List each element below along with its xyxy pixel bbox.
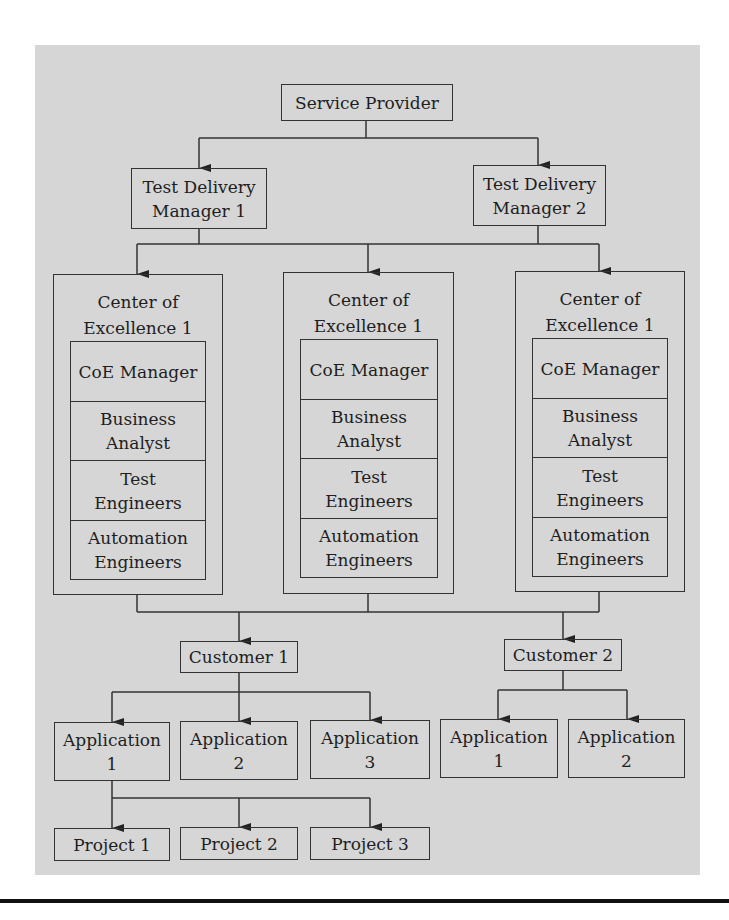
role-label: Automation <box>88 526 188 550</box>
role-automation-engineers: AutomationEngineers <box>533 518 667 575</box>
node-label: Project 3 <box>331 832 409 856</box>
role-label: Test <box>351 465 387 489</box>
role-stack: CoE Manager BusinessAnalyst TestEngineer… <box>70 341 206 580</box>
role-test-engineers: TestEngineers <box>533 458 667 518</box>
node-label: 1 <box>494 749 505 773</box>
role-label: Test <box>120 467 156 491</box>
role-label: Engineers <box>94 550 182 574</box>
node-label: Project 1 <box>73 833 151 857</box>
role-label: Engineers <box>556 488 644 512</box>
node-label: Application <box>321 726 419 750</box>
role-label: CoE Manager <box>541 357 660 381</box>
role-label: Engineers <box>94 491 182 515</box>
role-label: Business <box>100 407 176 431</box>
node-label: Manager 2 <box>493 196 587 220</box>
node-label: Application <box>450 725 548 749</box>
role-stack: CoE Manager BusinessAnalyst TestEngineer… <box>300 339 438 578</box>
center-title: Center of Excellence 1 <box>284 287 453 339</box>
node-label: Customer 1 <box>189 645 289 669</box>
node-customer-1-application-3: Application 3 <box>310 720 430 779</box>
node-test-delivery-manager-2: Test Delivery Manager 2 <box>473 165 606 226</box>
role-business-analyst: BusinessAnalyst <box>301 400 437 459</box>
role-stack: CoE Manager BusinessAnalyst TestEngineer… <box>532 338 668 577</box>
center-title: Center of Excellence 1 <box>516 286 684 338</box>
role-label: Analyst <box>568 428 632 452</box>
role-label: Automation <box>550 523 650 547</box>
center-title-line: Center of <box>284 287 453 313</box>
node-label: Project 2 <box>200 832 278 856</box>
role-coe-manager: CoE Manager <box>301 340 437 400</box>
node-label: 3 <box>365 750 376 774</box>
node-customer-2-application-1: Application 1 <box>440 719 558 778</box>
node-customer-2: Customer 2 <box>504 639 622 671</box>
node-label: Manager 1 <box>152 199 246 223</box>
node-center-of-excellence-b: Center of Excellence 1 CoE Manager Busin… <box>283 272 454 594</box>
node-service-provider: Service Provider <box>281 84 453 121</box>
node-customer-2-application-2: Application 2 <box>568 719 685 778</box>
center-title-line: Excellence 1 <box>54 315 222 341</box>
role-label: Analyst <box>337 429 401 453</box>
role-label: Test <box>582 464 618 488</box>
node-test-delivery-manager-1: Test Delivery Manager 1 <box>131 168 267 229</box>
node-customer-1: Customer 1 <box>180 641 298 673</box>
role-label: Engineers <box>556 547 644 571</box>
role-label: Engineers <box>325 548 413 572</box>
node-project-2: Project 2 <box>180 827 298 860</box>
role-coe-manager: CoE Manager <box>71 342 205 402</box>
role-coe-manager: CoE Manager <box>533 339 667 399</box>
node-label: Test Delivery <box>143 175 256 199</box>
node-label: Customer 2 <box>513 643 613 667</box>
role-automation-engineers: AutomationEngineers <box>301 519 437 576</box>
center-title-line: Excellence 1 <box>516 312 684 338</box>
role-label: Analyst <box>106 431 170 455</box>
horizontal-rule <box>0 899 729 903</box>
node-label: 1 <box>107 752 118 776</box>
node-label: Application <box>577 725 675 749</box>
node-customer-1-application-1: Application 1 <box>54 722 170 781</box>
role-label: CoE Manager <box>79 360 198 384</box>
node-center-of-excellence-a: Center of Excellence 1 CoE Manager Busin… <box>53 274 223 595</box>
center-title-line: Center of <box>516 286 684 312</box>
node-project-1: Project 1 <box>54 828 170 861</box>
role-business-analyst: BusinessAnalyst <box>71 402 205 461</box>
node-label: Application <box>63 728 161 752</box>
center-title-line: Center of <box>54 289 222 315</box>
role-label: Engineers <box>325 489 413 513</box>
node-project-3: Project 3 <box>310 827 430 860</box>
node-label: Test Delivery <box>483 172 596 196</box>
role-label: Automation <box>319 524 419 548</box>
node-customer-1-application-2: Application 2 <box>180 721 298 780</box>
role-label: CoE Manager <box>310 358 429 382</box>
role-test-engineers: TestEngineers <box>71 461 205 521</box>
role-automation-engineers: AutomationEngineers <box>71 521 205 578</box>
center-title-line: Excellence 1 <box>284 313 453 339</box>
role-label: Business <box>331 405 407 429</box>
role-business-analyst: BusinessAnalyst <box>533 399 667 458</box>
role-test-engineers: TestEngineers <box>301 459 437 519</box>
node-label: 2 <box>621 749 632 773</box>
node-center-of-excellence-c: Center of Excellence 1 CoE Manager Busin… <box>515 271 685 592</box>
center-title: Center of Excellence 1 <box>54 289 222 341</box>
role-label: Business <box>562 404 638 428</box>
node-label: 2 <box>234 751 245 775</box>
node-label: Service Provider <box>295 91 439 115</box>
node-label: Application <box>190 727 288 751</box>
